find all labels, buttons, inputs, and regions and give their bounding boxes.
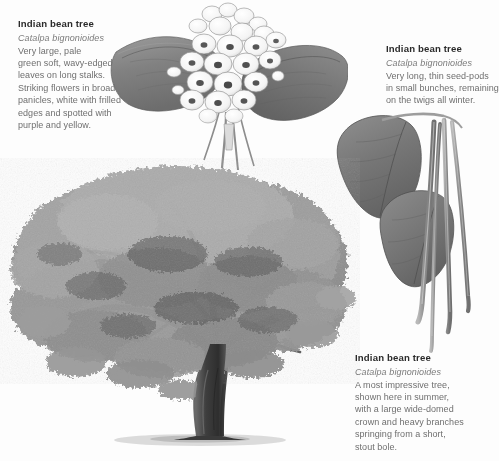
caption-tree-title: Indian bean tree	[355, 352, 499, 365]
caption-line: green soft, wavy-edged	[18, 57, 153, 69]
catalpa-whole-tree-illustration	[0, 158, 360, 461]
caption-line: on the twigs all winter.	[386, 94, 499, 106]
caption-line: A most impressive tree,	[355, 379, 499, 391]
caption-pods-scientific-name: Catalpa bignonioides	[386, 57, 499, 70]
caption-flower-title: Indian bean tree	[18, 18, 153, 31]
caption-line: panicles, white with frilled	[18, 94, 153, 106]
caption-line: crown and heavy branches	[355, 416, 499, 428]
caption-tree-body: A most impressive tree, shown here in su…	[355, 379, 499, 453]
caption-line: leaves on long stalks.	[18, 69, 153, 81]
caption-line: purple and yellow.	[18, 119, 153, 131]
caption-line: with a large wide-domed	[355, 403, 499, 415]
caption-flower-body: Very large, pale green soft, wavy-edged …	[18, 45, 153, 132]
caption-pods: Indian bean tree Catalpa bignonioides Ve…	[386, 43, 499, 107]
caption-line: Striking flowers in broad	[18, 82, 153, 94]
botanical-page: Indian bean tree Catalpa bignonioides Ve…	[0, 0, 499, 461]
caption-line: Very large, pale	[18, 45, 153, 57]
caption-tree-scientific-name: Catalpa bignonioides	[355, 366, 499, 379]
caption-line: shown here in summer,	[355, 391, 499, 403]
caption-line: stout bole.	[355, 441, 499, 453]
leaf-lower	[380, 191, 454, 287]
caption-line: Very long, thin seed-pods	[386, 70, 499, 82]
panicle-bract	[224, 124, 234, 150]
caption-line: in small bunches, remaining	[386, 82, 499, 94]
caption-flower: Indian bean tree Catalpa bignonioides Ve…	[18, 18, 153, 131]
caption-pods-title: Indian bean tree	[386, 43, 499, 56]
caption-tree: Indian bean tree Catalpa bignonioides A …	[355, 352, 499, 453]
caption-pods-body: Very long, thin seed-pods in small bunch…	[386, 70, 499, 107]
caption-flower-scientific-name: Catalpa bignonioides	[18, 32, 153, 45]
caption-line: springing from a short,	[355, 428, 499, 440]
caption-line: edges and spotted with	[18, 107, 153, 119]
